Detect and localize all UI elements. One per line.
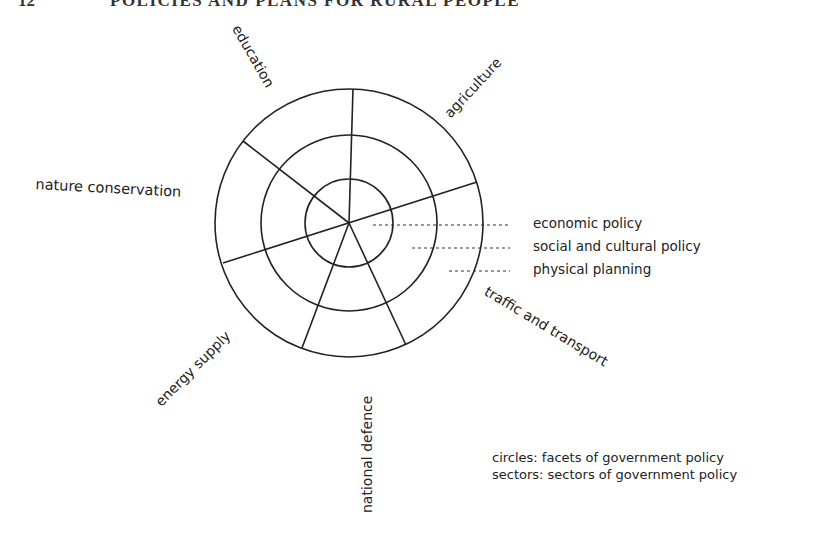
note-sectors: sectors: sectors of government policy [492,467,737,482]
divider-bottom-right [349,223,406,345]
facet-label-physical-planning: physical planning [533,261,651,277]
sector-label-national-defence: national defence [359,396,375,513]
note-circles: circles: facets of government policy [492,450,724,465]
facet-label-economic-policy: economic policy [533,215,642,231]
facet-label-social-cultural-policy: social and cultural policy [533,238,701,254]
divider-top [349,89,353,223]
